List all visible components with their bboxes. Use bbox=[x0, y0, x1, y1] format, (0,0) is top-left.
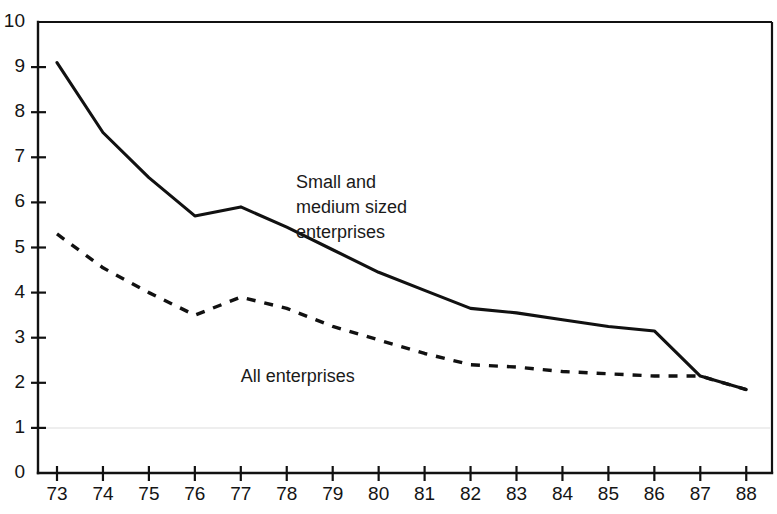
x-tick-label: 87 bbox=[690, 483, 711, 504]
series-layer bbox=[57, 63, 746, 390]
chart-container: 012345678910 737475767778798081828384858… bbox=[0, 0, 777, 514]
annotation-line: medium sized bbox=[296, 197, 407, 217]
y-axis-ticks: 012345678910 bbox=[4, 10, 46, 482]
x-tick-label: 86 bbox=[644, 483, 665, 504]
x-tick-label: 80 bbox=[368, 483, 389, 504]
x-tick-label: 83 bbox=[506, 483, 527, 504]
annotation-line: enterprises bbox=[296, 222, 385, 242]
x-tick-label: 76 bbox=[184, 483, 205, 504]
annotation-line: Small and bbox=[296, 172, 376, 192]
y-tick-label: 5 bbox=[14, 236, 25, 257]
x-tick-label: 84 bbox=[552, 483, 574, 504]
y-tick-label: 9 bbox=[14, 55, 25, 76]
line-chart: 012345678910 737475767778798081828384858… bbox=[0, 0, 777, 514]
x-tick-label: 88 bbox=[736, 483, 757, 504]
y-tick-label: 10 bbox=[4, 10, 25, 31]
y-tick-label: 3 bbox=[14, 326, 25, 347]
annotation-line: All enterprises bbox=[241, 366, 355, 386]
x-tick-label: 85 bbox=[598, 483, 619, 504]
x-tick-label: 78 bbox=[276, 483, 297, 504]
x-axis-ticks: 73747576777879808182838485868788 bbox=[46, 466, 756, 504]
y-tick-label: 1 bbox=[14, 416, 25, 437]
x-tick-label: 77 bbox=[230, 483, 251, 504]
y-tick-label: 8 bbox=[14, 100, 25, 121]
annotation-all-label: All enterprises bbox=[241, 366, 355, 386]
x-tick-label: 81 bbox=[414, 483, 435, 504]
plot-frame bbox=[38, 22, 772, 473]
x-tick-label: 73 bbox=[46, 483, 67, 504]
series-line-smes bbox=[57, 63, 746, 390]
series-line-all-enterprises bbox=[57, 234, 746, 390]
x-tick-label: 79 bbox=[322, 483, 343, 504]
y-tick-label: 7 bbox=[14, 145, 25, 166]
y-tick-label: 2 bbox=[14, 371, 25, 392]
annotation-layer: Small andmedium sizedenterprisesAll ente… bbox=[241, 172, 407, 386]
x-tick-label: 82 bbox=[460, 483, 481, 504]
y-tick-label: 6 bbox=[14, 190, 25, 211]
y-tick-label: 4 bbox=[14, 281, 25, 302]
x-tick-label: 74 bbox=[92, 483, 114, 504]
annotation-smes-label: Small andmedium sizedenterprises bbox=[296, 172, 407, 242]
y-tick-label: 0 bbox=[14, 461, 25, 482]
x-tick-label: 75 bbox=[138, 483, 159, 504]
